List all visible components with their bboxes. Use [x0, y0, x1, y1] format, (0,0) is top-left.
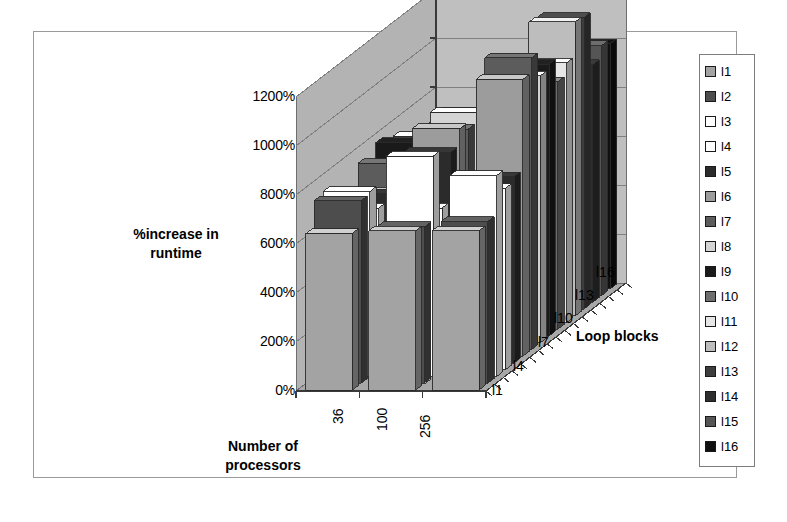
z-axis-title: Loop blocks: [576, 327, 696, 346]
x-tick-label-100: 100: [374, 408, 390, 431]
legend-swatch-icon-l8: [705, 241, 716, 252]
legend-label-l11: l11: [721, 309, 737, 334]
legend-item-l10[interactable]: l10: [705, 284, 754, 309]
chart-root: 1200% 1000% 800% 600% 400% 200% 0% 36 10…: [0, 0, 787, 522]
legend-label-l10: l10: [721, 284, 738, 309]
legend-swatch-icon-l13: [705, 366, 716, 377]
legend-label-l2: l2: [721, 84, 731, 109]
y-tick-label-0: 0%: [225, 382, 295, 398]
legend-label-l8: l8: [721, 234, 731, 259]
legend-item-l11[interactable]: l11: [705, 309, 754, 334]
y-tick-label-1200: 1200%: [225, 88, 295, 104]
legend-label-l13: l13: [721, 359, 738, 384]
legend-item-l8[interactable]: l8: [705, 234, 754, 259]
x-axis-title: Number of processors: [193, 437, 333, 475]
legend-swatch-icon-l11: [705, 316, 716, 327]
legend-swatch-icon-l14: [705, 391, 716, 402]
legend-swatch-icon-l16: [705, 441, 716, 452]
z-tick-label-l1: l1: [492, 382, 503, 398]
legend-label-l12: l12: [721, 334, 738, 359]
legend[interactable]: l1l2l3l4l5l6l7l8l9l10l11l12l13l14l15l16: [699, 54, 755, 467]
legend-swatch-icon-l9: [705, 266, 716, 277]
legend-label-l15: l15: [721, 409, 738, 434]
legend-swatch-icon-l10: [705, 291, 716, 302]
legend-item-l1[interactable]: l1: [705, 59, 754, 84]
x-tick-label-256: 256: [417, 415, 433, 438]
legend-label-l7: l7: [721, 209, 731, 234]
legend-label-l16: l16: [721, 434, 738, 459]
legend-item-l7[interactable]: l7: [705, 209, 754, 234]
legend-item-l4[interactable]: l4: [705, 134, 754, 159]
z-tick-label-l4: l4: [513, 358, 524, 374]
legend-item-l12[interactable]: l12: [705, 334, 754, 359]
legend-swatch-icon-l12: [705, 341, 716, 352]
legend-label-l14: l14: [721, 384, 738, 409]
legend-swatch-icon-l3: [705, 116, 716, 127]
y-tick-label-1000: 1000%: [225, 137, 295, 153]
legend-label-l4: l4: [721, 134, 731, 159]
legend-item-l15[interactable]: l15: [705, 409, 754, 434]
legend-item-l14[interactable]: l14: [705, 384, 754, 409]
legend-label-l1: l1: [721, 59, 731, 84]
z-tick-label-l13: l13: [575, 287, 594, 303]
legend-item-l9[interactable]: l9: [705, 259, 754, 284]
legend-swatch-icon-l7: [705, 216, 716, 227]
legend-label-l6: l6: [721, 184, 731, 209]
legend-item-l16[interactable]: l16: [705, 434, 754, 459]
y-axis-title: %increase in runtime: [110, 225, 242, 263]
y-tick-label-800: 800%: [225, 186, 295, 202]
y-tick-label-400: 400%: [225, 284, 295, 300]
z-tick-label-l16: l16: [596, 264, 615, 280]
x-tick-label-36: 36: [330, 408, 346, 424]
legend-swatch-icon-l5: [705, 166, 716, 177]
legend-item-l5[interactable]: l5: [705, 159, 754, 184]
legend-swatch-icon-l2: [705, 91, 716, 102]
legend-item-l13[interactable]: l13: [705, 359, 754, 384]
legend-swatch-icon-l6: [705, 191, 716, 202]
y-tick-label-200: 200%: [225, 333, 295, 349]
z-tick-label-l10: l10: [554, 310, 573, 326]
legend-swatch-icon-l15: [705, 416, 716, 427]
legend-label-l3: l3: [721, 109, 731, 134]
legend-item-l3[interactable]: l3: [705, 109, 754, 134]
legend-swatch-icon-l1: [705, 66, 716, 77]
legend-item-l2[interactable]: l2: [705, 84, 754, 109]
z-tick-label-l7: l7: [538, 334, 549, 350]
legend-label-l9: l9: [721, 259, 731, 284]
legend-item-l6[interactable]: l6: [705, 184, 754, 209]
legend-swatch-icon-l4: [705, 141, 716, 152]
legend-label-l5: l5: [721, 159, 731, 184]
